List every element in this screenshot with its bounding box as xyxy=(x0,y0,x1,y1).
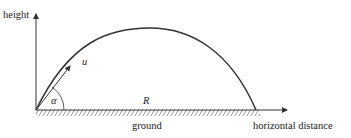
horizontal-distance-label: horizontal distance xyxy=(253,120,333,131)
angle-label: α xyxy=(51,95,57,106)
ground-hatching xyxy=(36,110,260,116)
velocity-label: u xyxy=(82,56,87,67)
range-label: R xyxy=(142,95,150,106)
projectile-diagram: height horizontal distance ground u α R xyxy=(0,0,351,138)
ground-label: ground xyxy=(132,120,162,131)
height-label: height xyxy=(3,9,29,20)
